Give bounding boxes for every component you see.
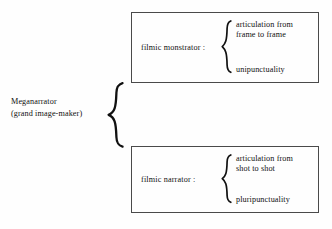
branch-attributes-monstrator: articulation from frame to frame unipunc… (236, 18, 314, 78)
branch-box-filmic-narrator: filmic narrator : articulation from shot… (131, 146, 319, 213)
root-curly-brace-icon (106, 82, 128, 148)
branch-label-filmic-monstrator: filmic monstrator : (141, 43, 205, 53)
attribute-articulation-line1: articulation from (236, 154, 293, 164)
branch-box-filmic-monstrator: filmic monstrator : articulation from fr… (131, 12, 319, 83)
root-label: Meganarrator (grand image-maker) (11, 96, 107, 119)
branch-attributes-narrator: articulation from shot to shot pluripunc… (236, 152, 314, 208)
attribute-punctuality-narrator: pluripunctuality (236, 195, 290, 205)
attribute-punctuality-monstrator: unipunctuality (236, 65, 285, 75)
root-label-line2: (grand image-maker) (11, 108, 107, 120)
diagram-canvas: Meganarrator (grand image-maker) filmic … (0, 0, 332, 229)
attribute-articulation-line1: articulation from (236, 20, 293, 30)
branch-label-filmic-narrator: filmic narrator : (141, 175, 195, 185)
branch-curly-brace-icon-monstrator (221, 20, 234, 75)
attribute-articulation-line2: shot to shot (236, 164, 293, 174)
attribute-articulation-line2: frame to frame (236, 30, 293, 40)
attribute-articulation-monstrator: articulation from frame to frame (236, 20, 293, 41)
branch-curly-brace-icon-narrator (221, 154, 234, 205)
attribute-articulation-narrator: articulation from shot to shot (236, 154, 293, 175)
root-label-line1: Meganarrator (11, 96, 107, 108)
